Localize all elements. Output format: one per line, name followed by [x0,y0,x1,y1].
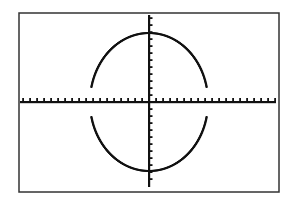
calculator-graph-screen [0,0,289,200]
